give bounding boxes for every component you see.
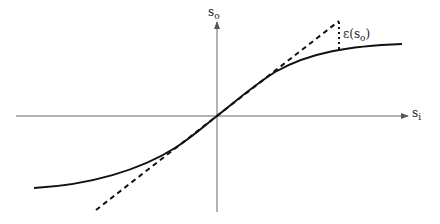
x-axis-label: si <box>412 106 421 122</box>
figure: so si ε(so) <box>0 0 440 224</box>
diagram-canvas <box>0 0 440 224</box>
error-label: ε(so) <box>343 27 370 43</box>
y-axis-label: so <box>208 5 220 21</box>
